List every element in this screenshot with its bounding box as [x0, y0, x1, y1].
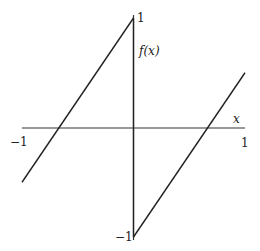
series-line-0 [22, 18, 134, 182]
x-axis-label: x [233, 112, 240, 126]
series-line-1 [134, 73, 246, 237]
function-plot: 1 f(x) x −1 1 −1 [0, 0, 260, 251]
y-top-tick-label: 1 [137, 11, 145, 25]
x-right-tick-label: 1 [241, 136, 249, 150]
x-left-tick-label: −1 [10, 135, 28, 149]
y-bottom-tick-label: −1 [115, 230, 133, 244]
y-axis-label: f(x) [138, 44, 160, 58]
